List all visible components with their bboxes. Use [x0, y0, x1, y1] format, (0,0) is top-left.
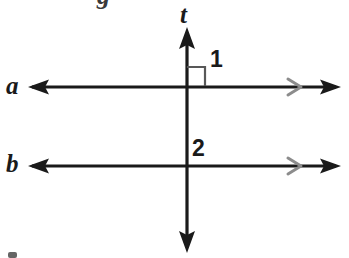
diagram-canvas [0, 0, 349, 258]
geometry-figure: g [0, 0, 349, 258]
line-t-label: t [180, 2, 187, 27]
right-angle-marker-icon [188, 67, 205, 85]
line-b-label: b [6, 151, 19, 176]
angle-2-label: 2 [192, 137, 205, 160]
line-a-label: a [6, 73, 19, 98]
angle-1-label: 1 [210, 48, 223, 71]
cropped-speck-bottom [8, 252, 17, 258]
line-b [28, 158, 341, 174]
line-a [28, 79, 341, 95]
